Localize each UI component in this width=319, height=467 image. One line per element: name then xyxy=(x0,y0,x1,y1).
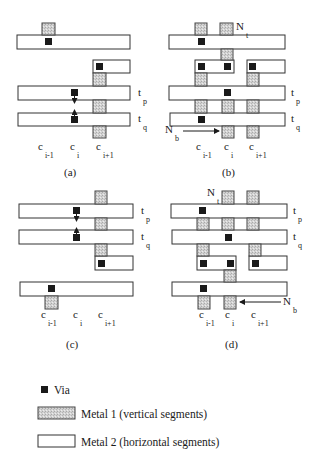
metal1-segment xyxy=(95,191,107,204)
via-icon xyxy=(45,38,52,45)
column-label: ci-1 xyxy=(41,308,57,328)
metal1-segment xyxy=(197,244,209,256)
via-icon xyxy=(96,63,103,70)
panel-caption: (b) xyxy=(222,166,235,179)
legend-item-metal1: Metal 1 (vertical segments) xyxy=(38,407,207,421)
metal2-segment xyxy=(169,35,285,49)
metal1-segment xyxy=(93,126,106,138)
via-icon xyxy=(224,63,231,70)
via-icon xyxy=(224,89,231,96)
panel-caption: (d) xyxy=(225,338,238,351)
track-label: tq xyxy=(293,230,302,250)
metal1-segment xyxy=(195,100,207,113)
column-label: ci+1 xyxy=(249,140,267,160)
metal1-segment xyxy=(42,23,55,35)
via-icon xyxy=(198,38,205,45)
via-icon xyxy=(200,260,207,267)
column-label: ci xyxy=(225,308,235,328)
legend-label-metal2: Metal 2 (horizontal segments) xyxy=(81,436,219,449)
track-label: tp xyxy=(141,204,150,224)
panel-b: tptqci-1cici+1NtNb(b) xyxy=(165,20,300,179)
panel-c: tptqci-1cici+1(c) xyxy=(19,191,150,351)
metal1-segment xyxy=(222,191,234,204)
metal2-segment xyxy=(20,282,133,296)
metal1-segment xyxy=(93,73,106,86)
legend-label-metal1: Metal 1 (vertical segments) xyxy=(81,408,207,421)
track-label: tp xyxy=(293,204,302,224)
column-label: ci-1 xyxy=(196,140,212,160)
metal2-swatch-icon xyxy=(38,435,75,447)
via-icon xyxy=(199,207,206,214)
column-label: ci xyxy=(70,140,80,160)
column-label: ci+1 xyxy=(98,308,116,328)
metal1-segment xyxy=(197,218,209,230)
metal1-segment xyxy=(221,49,233,60)
routing-diagram: tptqci-1cici+1(a) tptqci-1cici+1NtNb(b) … xyxy=(0,0,319,467)
metal1-segment xyxy=(93,100,106,113)
panel-d: tptqci-1cici+1NtNb(d) xyxy=(171,186,302,351)
column-label: ci+1 xyxy=(96,140,114,160)
column-label: ci+1 xyxy=(251,308,269,328)
metal1-segment xyxy=(247,126,259,138)
via-icon xyxy=(200,285,207,292)
metal2-segment xyxy=(17,35,130,49)
via-icon xyxy=(198,116,205,123)
via-icon xyxy=(71,89,78,96)
panel-caption: (a) xyxy=(64,166,77,179)
legend-item-via: Via xyxy=(41,384,70,396)
panel-caption: (c) xyxy=(66,338,79,351)
via-icon xyxy=(73,207,80,214)
metal2-segment xyxy=(172,282,287,296)
net-label: Nt xyxy=(207,186,220,206)
metal1-segment xyxy=(247,100,259,113)
via-icon xyxy=(252,260,259,267)
metal1-segment xyxy=(95,218,107,230)
via-icon xyxy=(249,63,256,70)
column-label: ci xyxy=(224,140,234,160)
metal1-segment xyxy=(249,244,261,256)
net-label: Nb xyxy=(283,295,297,315)
metal1-segment xyxy=(220,23,233,35)
metal1-swatch-icon xyxy=(38,407,75,419)
track-label: tp xyxy=(291,86,300,106)
metal1-segment xyxy=(247,73,259,86)
metal1-segment xyxy=(222,218,234,230)
metal1-segment xyxy=(224,270,236,282)
via-swatch-icon xyxy=(41,386,48,393)
column-label: ci-1 xyxy=(199,308,215,328)
track-label: tq xyxy=(291,112,300,132)
legend-label-via: Via xyxy=(54,384,70,396)
metal1-segment xyxy=(247,191,259,204)
via-icon xyxy=(225,234,232,241)
track-label: tq xyxy=(138,112,147,132)
legend: Via Metal 1 (vertical segments) Metal 2 … xyxy=(38,384,219,449)
metal1-segment xyxy=(195,73,207,86)
via-icon xyxy=(198,63,205,70)
metal1-segment xyxy=(222,100,234,113)
via-icon xyxy=(227,260,234,267)
metal2-segment xyxy=(170,113,285,126)
track-label: tq xyxy=(141,230,150,250)
metal1-segment xyxy=(45,296,58,309)
column-label: ci-1 xyxy=(38,140,54,160)
metal1-segment xyxy=(222,126,234,138)
metal1-segment xyxy=(247,218,259,230)
legend-item-metal2: Metal 2 (horizontal segments) xyxy=(38,435,219,449)
via-icon xyxy=(98,260,105,267)
column-label: ci xyxy=(73,308,83,328)
panel-a: tptqci-1cici+1(a) xyxy=(17,23,147,179)
metal1-segment xyxy=(95,244,107,256)
via-icon xyxy=(48,285,55,292)
metal2-segment xyxy=(171,204,287,218)
metal1-segment xyxy=(195,23,207,35)
track-label: tp xyxy=(138,86,147,106)
